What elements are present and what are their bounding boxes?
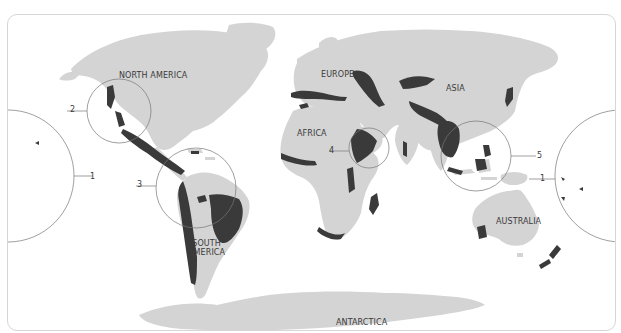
label-south-america-line2: AMERICA (188, 248, 225, 257)
callout-circle-1-right (555, 110, 615, 242)
greenland-landmass (225, 23, 275, 57)
callout-number-4: 4 (329, 146, 334, 155)
callout-number-1-right: 1 (540, 174, 545, 183)
new-guinea-landmass (501, 172, 528, 185)
label-europe: EUROPE (321, 70, 354, 79)
callout-circle-1-left (8, 110, 74, 242)
hotspot-new-zealand (549, 245, 561, 259)
label-south-america-line1: SOUTH (188, 239, 225, 248)
map-frame: NORTH AMERICA EUROPE ASIA AFRICA SOUTH A… (7, 14, 616, 331)
label-asia: ASIA (446, 84, 465, 93)
hotspot-western-ghats (403, 141, 407, 157)
label-north-america: NORTH AMERICA (119, 71, 187, 80)
callout-number-5: 5 (537, 151, 542, 160)
land-masses (59, 23, 561, 330)
antarctica-landmass (139, 292, 485, 331)
label-australia: AUSTRALIA (496, 217, 541, 226)
callout-number-3: 3 (137, 180, 142, 189)
callout-number-2: 2 (70, 105, 75, 114)
label-antarctica: ANTARCTICA (336, 318, 387, 327)
hotspot-madagascar (369, 193, 379, 215)
label-south-america: SOUTH AMERICA (188, 239, 225, 257)
callout-number-1-left: 1 (90, 172, 95, 181)
world-map (8, 15, 615, 330)
label-africa: AFRICA (297, 129, 327, 138)
